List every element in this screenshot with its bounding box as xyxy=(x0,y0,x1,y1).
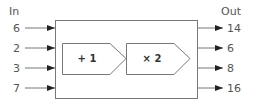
output-header: Out xyxy=(221,5,242,18)
function-machine-diagram: In Out 6 2 3 7 14 6 8 16 + 1 × 2 xyxy=(0,0,256,105)
output-value: 16 xyxy=(227,82,241,95)
input-arrows xyxy=(25,28,55,88)
operation-label: × 2 xyxy=(143,53,162,64)
input-value: 3 xyxy=(13,62,20,75)
operation-label: + 1 xyxy=(78,53,97,64)
input-value: 7 xyxy=(13,82,20,95)
output-value: 6 xyxy=(227,42,234,55)
output-value: 8 xyxy=(227,62,234,75)
input-header: In xyxy=(9,5,19,18)
input-value: 2 xyxy=(13,42,20,55)
output-arrows xyxy=(198,28,223,88)
output-value: 14 xyxy=(227,22,241,35)
input-value: 6 xyxy=(13,22,20,35)
